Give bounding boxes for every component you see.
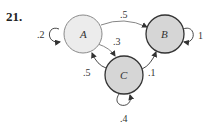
node-b-label: B xyxy=(161,28,168,40)
edge-a-to-b xyxy=(101,21,147,27)
edge-label-a-to-c: .3 xyxy=(113,36,121,47)
node-c-label: C xyxy=(120,69,128,81)
node-a-label: A xyxy=(79,28,87,40)
self-loop-a xyxy=(49,28,60,42)
edge-c-to-a xyxy=(92,53,106,68)
edge-label-a-to-b: .5 xyxy=(120,9,128,20)
state-diagram: .5 .3 .5 .1 .2 1 .4 A B C xyxy=(0,0,205,126)
edge-label-c-to-a: .5 xyxy=(83,67,91,78)
edge-label-c-to-b: .1 xyxy=(148,67,156,78)
node-b: B xyxy=(146,15,184,53)
edge-label-b-to-b: 1 xyxy=(198,30,203,41)
edge-label-c-to-c: .4 xyxy=(120,113,128,124)
self-loop-c xyxy=(117,94,130,105)
node-c: C xyxy=(105,56,143,94)
edge-label-a-to-a: .2 xyxy=(37,29,45,40)
node-a: A xyxy=(64,15,102,53)
